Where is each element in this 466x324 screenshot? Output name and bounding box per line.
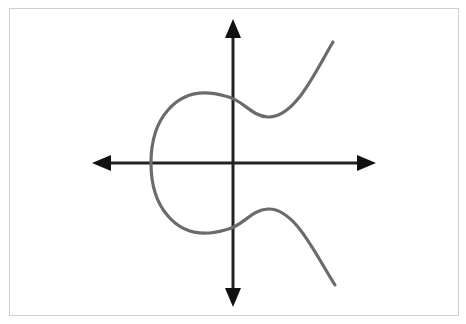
left-arrow-icon — [92, 155, 111, 171]
down-arrow-icon — [225, 288, 241, 307]
up-arrow-icon — [225, 19, 241, 38]
elliptic-curve-diagram — [0, 0, 466, 324]
right-arrow-icon — [357, 155, 376, 171]
